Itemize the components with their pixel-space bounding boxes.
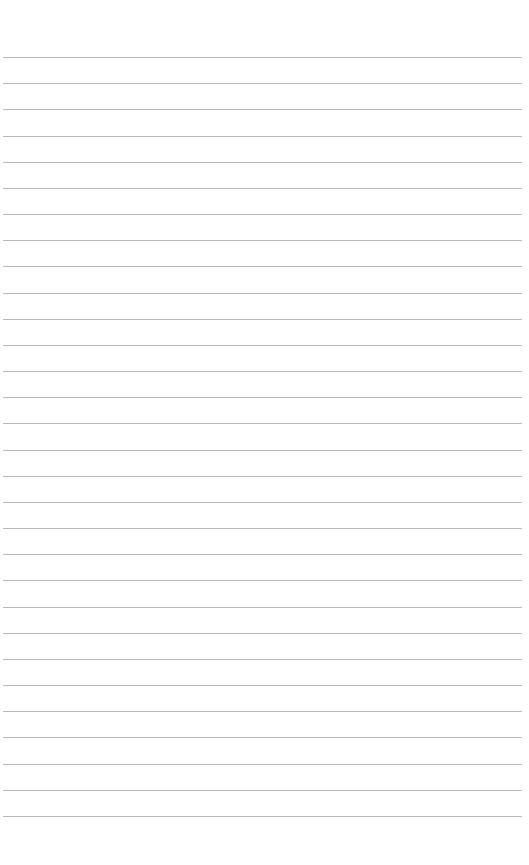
ruled-line — [3, 162, 522, 163]
ruled-line — [3, 659, 522, 660]
ruled-line — [3, 580, 522, 581]
ruled-line — [3, 319, 522, 320]
ruled-line — [3, 633, 522, 634]
ruled-line — [3, 83, 522, 84]
ruled-line — [3, 685, 522, 686]
ruled-line — [3, 136, 522, 137]
ruled-line — [3, 266, 522, 267]
ruled-line — [3, 764, 522, 765]
ruled-line — [3, 528, 522, 529]
ruled-line — [3, 293, 522, 294]
ruled-line — [3, 450, 522, 451]
ruled-line — [3, 711, 522, 712]
ruled-line — [3, 816, 522, 817]
ruled-line — [3, 607, 522, 608]
ruled-line — [3, 423, 522, 424]
ruled-line — [3, 737, 522, 738]
lined-paper-page — [0, 0, 529, 865]
ruled-line — [3, 476, 522, 477]
ruled-line — [3, 397, 522, 398]
ruled-line — [3, 188, 522, 189]
ruled-line — [3, 790, 522, 791]
ruled-line — [3, 554, 522, 555]
ruled-line — [3, 109, 522, 110]
ruled-line — [3, 345, 522, 346]
ruled-line — [3, 57, 522, 58]
ruled-line — [3, 240, 522, 241]
ruled-line — [3, 502, 522, 503]
ruled-line — [3, 371, 522, 372]
ruled-line — [3, 214, 522, 215]
